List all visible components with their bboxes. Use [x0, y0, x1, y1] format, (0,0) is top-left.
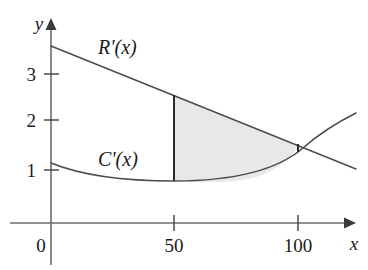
y-axis-arrow-icon — [46, 18, 57, 30]
y-tick-label-2: 2 — [27, 110, 37, 131]
x-tick-label-0: 0 — [36, 235, 46, 256]
shaded-profit-region — [174, 95, 303, 182]
plot-canvas: 3 2 1 0 50 100 y x R'(x) C'(x) — [0, 0, 368, 270]
x-axis-arrow-icon — [344, 218, 356, 229]
cost-curve-label: C'(x) — [98, 148, 138, 171]
x-tick-label-100: 100 — [284, 235, 313, 256]
y-tick-label-1: 1 — [27, 160, 37, 181]
x-axis-label: x — [349, 233, 359, 254]
revenue-curve-label: R'(x) — [97, 36, 137, 59]
figure-container: 3 2 1 0 50 100 y x R'(x) C'(x) — [0, 0, 368, 270]
y-axis-label: y — [33, 13, 44, 34]
x-tick-label-50: 50 — [165, 235, 184, 256]
y-tick-label-3: 3 — [27, 64, 37, 85]
